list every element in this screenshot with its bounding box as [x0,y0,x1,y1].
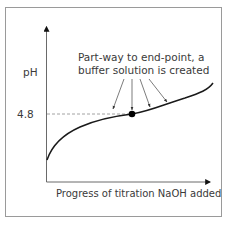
half-equivalence-point [129,111,136,118]
annotation-line-2: buffer solution is created [78,64,198,77]
x-axis-label: Progress of titration NaOH added [56,187,221,200]
buffer-annotation: Part-way to end-point, a buffer solution… [78,51,198,77]
annotation-arrow-3 [140,79,150,107]
annotation-arrow-4 [149,79,167,102]
y-tick-4.8: 4.8 [17,108,34,121]
annotation-line-1: Part-way to end-point, a [78,51,198,64]
titration-curve [47,83,213,160]
annotation-arrow-1 [113,79,124,109]
y-axis-label: pH [23,66,38,79]
